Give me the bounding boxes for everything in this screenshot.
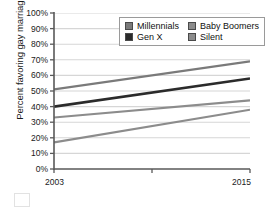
legend-entry-baby-boomers[interactable]: Baby Boomers — [188, 21, 259, 31]
y-tick-label: 0% — [18, 165, 48, 174]
legend-swatch-icon — [125, 33, 133, 41]
y-tick-label: 50% — [18, 87, 48, 96]
y-tick-label: 40% — [18, 103, 48, 112]
line-chart: Percent favoring gay marriage 100%90%80%… — [0, 0, 272, 209]
legend-swatch-icon — [125, 22, 133, 30]
y-tick-label: 20% — [18, 134, 48, 143]
legend-entry-silent[interactable]: Silent — [188, 32, 259, 42]
y-tick-label: 90% — [18, 25, 48, 34]
legend-entry-gen-x[interactable]: Gen X — [125, 32, 179, 42]
legend-label: Gen X — [137, 32, 163, 42]
y-tick-label: 80% — [18, 40, 48, 49]
legend-swatch-icon — [188, 33, 196, 41]
x-tick-label: 2015 — [232, 177, 251, 187]
legend-label: Silent — [200, 32, 223, 42]
legend-label: Baby Boomers — [200, 21, 259, 31]
y-tick-label: 70% — [18, 56, 48, 65]
chart-legend: MillennialsBaby BoomersGen XSilent — [119, 17, 265, 46]
y-tick-label: 100% — [18, 9, 48, 18]
y-tick-label: 30% — [18, 118, 48, 127]
page-artifact — [14, 193, 30, 207]
y-tick-label: 60% — [18, 71, 48, 80]
legend-entry-millennials[interactable]: Millennials — [125, 21, 179, 31]
legend-swatch-icon — [188, 22, 196, 30]
y-axis-tick-labels: 100%90%80%70%60%50%40%30%20%10%0% — [18, 0, 48, 209]
x-tick-label: 2003 — [45, 177, 64, 187]
legend-label: Millennials — [137, 21, 179, 31]
y-tick-label: 10% — [18, 149, 48, 158]
